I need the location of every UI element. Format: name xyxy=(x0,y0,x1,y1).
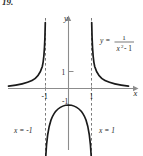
curve-equation-lhs: y = xyxy=(99,36,110,45)
tick-label-y-neg-one: -1 xyxy=(62,97,68,106)
tick-label-y-pos-one: 1 xyxy=(62,68,66,77)
asymptote-label-left: x = -1 xyxy=(13,126,32,135)
curve-branch-right xyxy=(92,23,129,87)
curve-equation-numerator: 1 xyxy=(122,34,126,42)
asymptote-label-right: x = 1 xyxy=(98,126,115,135)
curve-equation-label: y = 1 x 2 - 1 xyxy=(99,34,134,54)
figure-container: 19. y x -1 1 xyxy=(0,0,143,156)
tick-label-x-pos-one: 1 xyxy=(90,92,94,101)
curve-equation-denominator-base: x xyxy=(116,44,121,53)
y-axis-label: y xyxy=(63,13,68,23)
tick-label-x-neg-one: -1 xyxy=(42,92,48,101)
graph-svg: y x -1 1 1 -1 x = -1 x = 1 y = 1 x 2 - 1 xyxy=(0,0,143,156)
x-axis xyxy=(8,86,139,91)
curve-equation-denominator-rest: - 1 xyxy=(124,44,132,53)
curve-branch-left xyxy=(9,23,46,87)
y-axis xyxy=(66,16,71,151)
x-axis-label: x xyxy=(133,88,138,98)
